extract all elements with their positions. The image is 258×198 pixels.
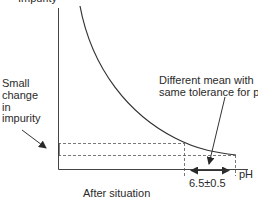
left-annotation-arrow (22, 130, 46, 148)
caption: After situation (83, 187, 150, 198)
y-axis-label: Impurity (18, 0, 57, 5)
right-annotation-line-2: same tolerance for pH (159, 86, 258, 99)
left-annotation-line-4: impurity (2, 112, 41, 125)
right-annotation-arrow (209, 97, 225, 164)
diagram-canvas (0, 0, 258, 198)
tolerance-label: 6.5±0.5 (189, 177, 226, 190)
x-axis-label: pH (239, 168, 253, 181)
